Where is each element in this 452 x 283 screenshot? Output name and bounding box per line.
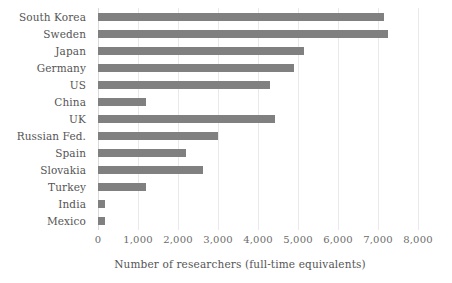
- bar-row: [98, 76, 418, 93]
- tick-label: 5,000: [283, 234, 313, 245]
- bar: [98, 149, 186, 157]
- category-label: Turkey: [0, 179, 92, 196]
- value-axis-tick-labels: 01,0002,0003,0004,0005,0006,0007,0008,00…: [98, 234, 418, 250]
- bar-row: [98, 25, 418, 42]
- category-label: Slovakia: [0, 162, 92, 179]
- bar: [98, 115, 275, 123]
- bar: [98, 30, 388, 38]
- x-axis-title: Number of researchers (full-time equival…: [0, 258, 452, 270]
- tick-label: 7,000: [363, 234, 393, 245]
- tick-label: 3,000: [203, 234, 233, 245]
- category-label: Russian Fed.: [0, 127, 92, 144]
- tick-label: 6,000: [323, 234, 353, 245]
- bar: [98, 183, 146, 191]
- tick-label: 0: [95, 234, 102, 245]
- bar-row: [98, 179, 418, 196]
- category-label: Germany: [0, 59, 92, 76]
- category-label: Spain: [0, 145, 92, 162]
- bar: [98, 98, 146, 106]
- bar-row: [98, 162, 418, 179]
- bar-row: [98, 93, 418, 110]
- x-axis-title-text: Number of researchers (full-time equival…: [114, 258, 366, 270]
- bar: [98, 166, 203, 174]
- tick-label: 2,000: [163, 234, 193, 245]
- bar: [98, 132, 218, 140]
- bar-chart: South KoreaSwedenJapanGermanyUSChinaUKRu…: [0, 0, 452, 283]
- bar-row: [98, 145, 418, 162]
- category-axis-labels: South KoreaSwedenJapanGermanyUSChinaUKRu…: [0, 8, 92, 230]
- category-label: Mexico: [0, 213, 92, 230]
- category-label: South Korea: [0, 8, 92, 25]
- category-label: Sweden: [0, 25, 92, 42]
- category-label: Japan: [0, 42, 92, 59]
- bar: [98, 13, 384, 21]
- bar-row: [98, 127, 418, 144]
- bar-row: [98, 42, 418, 59]
- tick-label: 1,000: [123, 234, 153, 245]
- bar-row: [98, 213, 418, 230]
- category-label: US: [0, 76, 92, 93]
- category-label: India: [0, 196, 92, 213]
- bar-row: [98, 196, 418, 213]
- category-label: China: [0, 93, 92, 110]
- bar: [98, 81, 270, 89]
- bar-row: [98, 59, 418, 76]
- tick-label: 4,000: [243, 234, 273, 245]
- tick-label: 8,000: [403, 234, 433, 245]
- gridline: [418, 8, 419, 230]
- bar-row: [98, 110, 418, 127]
- bar: [98, 217, 105, 225]
- category-label: UK: [0, 110, 92, 127]
- bar: [98, 64, 294, 72]
- plot-area: [98, 8, 418, 230]
- bar-series: [98, 8, 418, 230]
- bar-row: [98, 8, 418, 25]
- bar: [98, 200, 105, 208]
- bar: [98, 47, 304, 55]
